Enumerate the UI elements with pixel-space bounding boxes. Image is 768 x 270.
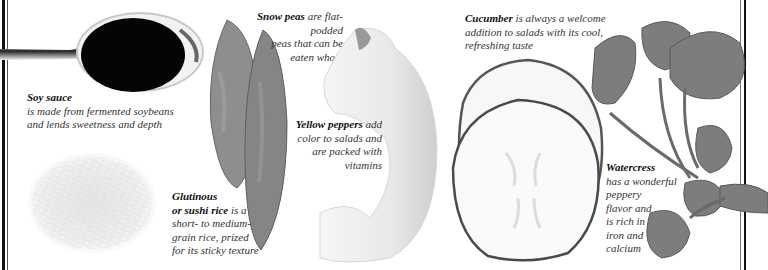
snow-peas-title: Snow peas	[257, 10, 305, 22]
watercress-text-2: peppery	[606, 188, 677, 202]
yellow-peppers-text-1: add	[363, 118, 382, 130]
cucumber-text-2: addition to salads with its cool,	[465, 26, 606, 40]
glutinous-rice-text-4: for its sticky texture	[172, 244, 259, 258]
watercress-caption: Watercress has a wonderful peppery flavo…	[606, 161, 677, 256]
cucumber-slices-image	[448, 58, 608, 263]
glutinous-rice-title-2: or sushi rice	[172, 204, 228, 216]
soy-sauce-text-1: is made from fermented soybeans	[27, 105, 174, 119]
glutinous-rice-text-2: short- to medium-	[172, 217, 259, 231]
watercress-text-6: calcium	[606, 242, 677, 256]
yellow-peppers-text-3: are packed with	[290, 145, 382, 159]
cucumber-title: Cucumber	[465, 12, 513, 24]
soy-sauce-title: Soy sauce	[27, 91, 72, 103]
cucumber-text-3: refreshing taste	[465, 39, 606, 53]
glutinous-rice-title-1: Glutinous	[172, 190, 217, 202]
yellow-peppers-title: Yellow peppers	[296, 118, 363, 130]
rice-image	[25, 148, 160, 258]
watercress-text-4: is rich in	[606, 215, 677, 229]
glutinous-rice-text-3: grain rice, prized	[172, 231, 259, 245]
yellow-peppers-text-4: vitamins	[290, 159, 382, 173]
yellow-peppers-text-2: color to salads and	[290, 132, 382, 146]
soy-sauce-caption: Soy sauce is made from fermented soybean…	[27, 91, 174, 132]
soy-sauce-spoon-image	[0, 0, 215, 95]
ingredients-page: Soy sauce is made from fermented soybean…	[0, 0, 768, 270]
watercress-text-3: flavor and	[606, 202, 677, 216]
watercress-title: Watercress	[606, 161, 655, 173]
cucumber-caption: Cucumber is always a welcome addition to…	[465, 12, 606, 53]
glutinous-rice-caption: Glutinous or sushi rice is a short- to m…	[172, 190, 259, 258]
yellow-peppers-caption: Yellow peppers add color to salads and a…	[290, 118, 382, 172]
watercress-text-1: has a wonderful	[606, 175, 677, 189]
soy-sauce-text-2: and lends sweetness and depth	[27, 118, 174, 132]
watercress-text-5: iron and	[606, 229, 677, 243]
glutinous-rice-text-1: is a	[228, 204, 246, 216]
